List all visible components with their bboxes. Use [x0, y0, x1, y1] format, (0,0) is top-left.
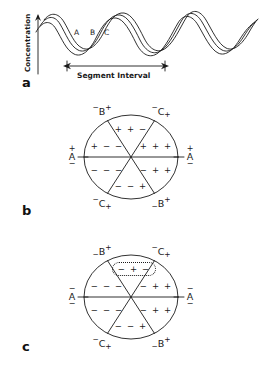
- panel-c-sector-lower-left: − − −: [91, 305, 123, 315]
- panel-letter-b: b: [22, 204, 31, 217]
- panel-b-sector-lower-right: − + +: [140, 165, 172, 175]
- panel-c-sector-bottom: − − +: [115, 321, 147, 331]
- panel-b-axis-right-below: −: [187, 161, 194, 168]
- panel-b-axis-left-below: −: [69, 161, 76, 168]
- panel-c-axis-top-right-post: +: [164, 250, 170, 259]
- panel-c-axis-top-left-post: +: [105, 243, 111, 252]
- panel-c-sector-upper-right: − + +: [140, 281, 172, 291]
- wave-label-c: C: [104, 28, 109, 37]
- y-axis-label-concentration: Concentration: [24, 14, 32, 72]
- panel-b-axis-top-left-post: +: [105, 103, 111, 112]
- panel-c-axis-label-right: − A −: [187, 286, 194, 308]
- panel-c-sector-lower-right: − + +: [140, 305, 172, 315]
- panel-letter-a: a: [22, 76, 31, 89]
- panel-c-axis-bottom-left-letter: C: [99, 338, 106, 349]
- panel-b-axis-label-top-right: −C+: [151, 106, 170, 117]
- segment-interval-label: Segment Interval: [77, 71, 150, 80]
- panel-c-axis-right-below: −: [187, 301, 194, 308]
- panel-c-sector-upper-left: − − −: [91, 281, 123, 291]
- panel-a-segment-interval-arrow: [63, 61, 169, 71]
- panel-b-axis-label-right: + A −: [187, 146, 194, 168]
- panel-c-axis-label-bottom-left: −C+: [92, 338, 111, 349]
- panel-a-y-axis: [35, 14, 41, 74]
- panel-b-axis-bottom-left-post: +: [105, 202, 111, 211]
- panel-b-sector-upper-right: + + +: [140, 141, 172, 151]
- panel-b-axis-top-right-letter: C: [158, 106, 165, 117]
- panel-c-axis-left-below: −: [69, 301, 76, 308]
- panel-b-sector-bottom: − − +: [115, 181, 147, 191]
- panel-b-sector-top: + + −: [115, 124, 147, 134]
- panel-c-axis-top-right-letter: C: [158, 246, 165, 257]
- panel-b-axis-bottom-right-post: +: [164, 195, 170, 204]
- panel-c-axis-label-top-right: −C+: [151, 246, 170, 257]
- panel-letter-c: c: [22, 340, 30, 353]
- panel-b-axis-label-left: + A −: [69, 146, 76, 168]
- panel-b-axis-label-bottom-left: −C+: [92, 198, 111, 209]
- panel-b-axis-bottom-left-letter: C: [99, 198, 106, 209]
- panel-c-axis-label-top-left: −B+: [92, 246, 111, 257]
- panel-b-axis-label-top-left: −B+: [92, 106, 111, 117]
- panel-c-axis-label-left: − A −: [69, 286, 76, 308]
- panel-c-axis-bottom-left-post: +: [105, 342, 111, 351]
- wave-label-b: B: [90, 28, 95, 37]
- figure-root: a b c Concentration Segment Interval A B…: [0, 0, 260, 386]
- panel-b-axis-top-right-post: +: [164, 110, 170, 119]
- panel-b-sector-upper-left: + − −: [91, 141, 123, 151]
- panel-c-sector-top: − + −: [118, 264, 150, 274]
- panel-c-axis-label-bottom-right: −B+: [151, 338, 170, 349]
- panel-b-axis-label-bottom-right: −B+: [151, 198, 170, 209]
- panel-c-axis-bottom-right-post: +: [164, 335, 170, 344]
- wave-label-a: A: [74, 28, 79, 37]
- panel-b-sector-lower-left: − − −: [91, 165, 123, 175]
